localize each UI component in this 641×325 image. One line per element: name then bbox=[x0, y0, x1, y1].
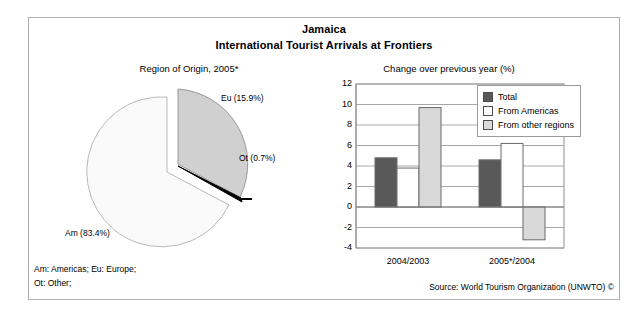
bar-from-other-regions-2004-2003 bbox=[419, 108, 441, 207]
page-title: Jamaica bbox=[29, 23, 619, 35]
pie-label-ot: Ot (0.7%) bbox=[239, 153, 275, 163]
y-axis-tick-label: 8 bbox=[328, 119, 352, 129]
bar-from-other-regions-2005-2004 bbox=[523, 207, 545, 240]
bar-chart: 121086420-2-42004/20032005*/2004 TotalFr… bbox=[329, 78, 614, 283]
legend-label: From Americas bbox=[498, 106, 559, 116]
pie-chart: Eu (15.9%) Ot (0.7%) Am (83.4%) bbox=[39, 80, 329, 260]
source-attribution: Source: World Tourism Organization (UNWT… bbox=[429, 282, 614, 292]
bar-from-americas-2005-2004 bbox=[501, 143, 523, 207]
page-subtitle: International Tourist Arrivals at Fronti… bbox=[29, 39, 619, 51]
y-axis-tick-label: -2 bbox=[328, 222, 352, 232]
pie-slice-eu bbox=[178, 89, 248, 197]
legend-label: From other regions bbox=[498, 120, 574, 130]
legend-swatch-icon bbox=[483, 92, 493, 102]
bar-chart-subtitle: Change over previous year (%) bbox=[339, 63, 559, 74]
bar-from-americas-2004-2003 bbox=[397, 168, 419, 207]
pie-chart-subtitle: Region of Origin, 2005* bbox=[89, 63, 289, 74]
x-axis-tick-label: 2004/2003 bbox=[368, 256, 448, 266]
legend-item: From other regions bbox=[483, 118, 574, 132]
footnote-abbreviations-1: Am: Americas; Eu: Europe; bbox=[34, 264, 136, 274]
legend-swatch-icon bbox=[483, 106, 493, 116]
legend-label: Total bbox=[498, 92, 517, 102]
y-axis-tick-label: 4 bbox=[328, 160, 352, 170]
footnote-abbreviations-2: Ot: Other; bbox=[34, 278, 71, 288]
bar-chart-legend: TotalFrom AmericasFrom other regions bbox=[477, 85, 581, 137]
legend-item: From Americas bbox=[483, 104, 574, 118]
bar-total-2004-2003 bbox=[375, 158, 397, 207]
chart-panel: Jamaica International Tourist Arrivals a… bbox=[28, 17, 620, 300]
y-axis-tick-label: 12 bbox=[328, 78, 352, 88]
y-axis-tick-label: -4 bbox=[328, 242, 352, 252]
bar-total-2005-2004 bbox=[479, 160, 501, 207]
y-axis-tick-label: 0 bbox=[328, 201, 352, 211]
pie-label-am: Am (83.4%) bbox=[65, 228, 110, 238]
y-axis-tick-label: 2 bbox=[328, 181, 352, 191]
pie-label-eu: Eu (15.9%) bbox=[221, 93, 264, 103]
y-axis-tick-label: 6 bbox=[328, 140, 352, 150]
y-axis-tick-label: 10 bbox=[328, 99, 352, 109]
legend-item: Total bbox=[483, 90, 574, 104]
x-axis-tick-label: 2005*/2004 bbox=[472, 256, 552, 266]
legend-swatch-icon bbox=[483, 120, 493, 130]
